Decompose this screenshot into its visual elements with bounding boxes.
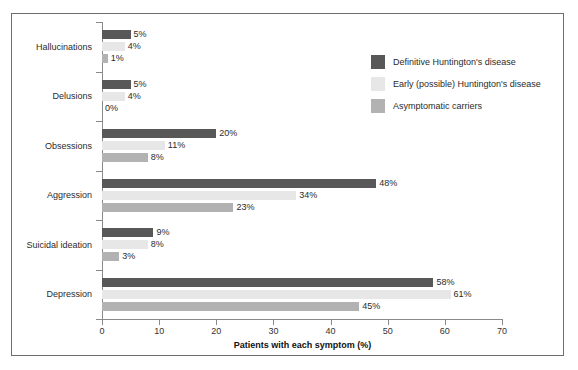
bar-value-label: 11% (168, 141, 185, 150)
figure: 010203040506070 HallucinationsDelusionsO… (0, 0, 578, 370)
bar-value-label: 48% (379, 179, 397, 188)
x-axis-tick (216, 320, 217, 325)
bar-value-label: 3% (122, 252, 135, 261)
y-axis-tick-label: Suicidal ideation (26, 240, 92, 250)
bar (102, 179, 376, 188)
x-axis-tick-label: 60 (440, 326, 450, 336)
bar-value-label: 1% (111, 54, 124, 63)
x-axis-tick (273, 320, 274, 325)
x-axis-title: Patients with each symptom (%) (102, 340, 503, 350)
y-axis-tick-label: Obsessions (45, 141, 92, 151)
bar-value-label: 45% (362, 302, 380, 311)
y-axis-tick-label: Aggression (47, 190, 92, 200)
bar-value-label: 34% (299, 191, 317, 200)
bar-value-label: 4% (128, 42, 141, 51)
bar-value-label: 5% (134, 30, 147, 39)
legend-swatch-icon (371, 99, 385, 113)
bar (102, 278, 433, 287)
x-axis-tick (331, 320, 332, 325)
bar (102, 252, 119, 261)
bar-value-label: 58% (436, 278, 454, 287)
bar-value-label: 23% (236, 203, 254, 212)
x-axis-tick-label: 20 (211, 326, 221, 336)
x-axis-tick-label: 10 (154, 326, 164, 336)
bar (102, 228, 153, 237)
bar (102, 92, 125, 101)
bar-value-label: 0% (105, 104, 118, 113)
y-axis-tick-label: Delusions (52, 91, 92, 101)
x-axis-tick-label: 30 (268, 326, 278, 336)
bar (102, 80, 131, 89)
bar (102, 191, 296, 200)
bar-value-label: 9% (156, 228, 169, 237)
x-axis-line (102, 319, 503, 320)
x-axis-tick-label: 0 (99, 326, 104, 336)
x-axis-tick (502, 320, 503, 325)
x-axis-tick-label: 70 (497, 326, 507, 336)
legend-label: Early (possible) Huntington's disease (393, 79, 541, 89)
bar (102, 290, 451, 299)
bar-value-label: 8% (151, 240, 164, 249)
bar (102, 240, 148, 249)
x-axis-tick (445, 320, 446, 325)
y-axis-tick-label: Hallucinations (36, 42, 92, 52)
bar (102, 141, 165, 150)
legend-swatch-icon (371, 55, 385, 69)
bar (102, 42, 125, 51)
bar-value-label: 20% (219, 129, 237, 138)
bar (102, 153, 148, 162)
bar (102, 30, 131, 39)
bar-value-label: 8% (151, 153, 164, 162)
x-axis-tick-label: 50 (383, 326, 393, 336)
x-axis-tick (388, 320, 389, 325)
y-axis-tick-label: Depression (46, 289, 92, 299)
bar (102, 129, 216, 138)
bar-value-label: 61% (454, 290, 472, 299)
legend-label: Asymptomatic carriers (393, 101, 482, 111)
x-axis-tick (102, 320, 103, 325)
x-axis-tick (159, 320, 160, 325)
bar (102, 54, 108, 63)
bar-value-label: 4% (128, 92, 141, 101)
legend-label: Definitive Huntington's disease (393, 57, 516, 67)
bar (102, 302, 359, 311)
x-axis-tick-label: 40 (326, 326, 336, 336)
legend-swatch-icon (371, 77, 385, 91)
bar-value-label: 5% (134, 80, 147, 89)
bar (102, 203, 233, 212)
